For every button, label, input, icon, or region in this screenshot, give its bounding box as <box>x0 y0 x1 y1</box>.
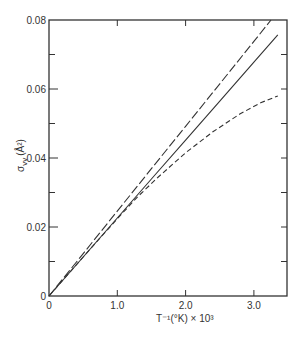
svg-text:0: 0 <box>46 300 52 311</box>
svg-text:0.02: 0.02 <box>27 222 47 233</box>
x-axis-label: T⁻¹(°K) × 10³ <box>156 313 214 324</box>
y-axis-unit: (Å²) <box>14 139 26 156</box>
svg-text:0.06: 0.06 <box>27 84 47 95</box>
svg-text:0: 0 <box>40 291 46 302</box>
svg-text:3.0: 3.0 <box>247 300 261 311</box>
svg-text:1.0: 1.0 <box>110 300 124 311</box>
series-dashed <box>49 96 278 296</box>
y-axis-subscript: vv <box>20 158 29 166</box>
series-dashdot <box>49 20 271 296</box>
chart: 01.02.03.000.020.040.060.08 T⁻¹(°K) × 10… <box>0 0 305 338</box>
svg-text:0.04: 0.04 <box>27 153 47 164</box>
svg-text:0.08: 0.08 <box>27 15 47 26</box>
tick-labels: 01.02.03.000.020.040.060.08 <box>27 15 262 312</box>
data-series <box>49 20 278 296</box>
svg-text:2.0: 2.0 <box>179 300 193 311</box>
